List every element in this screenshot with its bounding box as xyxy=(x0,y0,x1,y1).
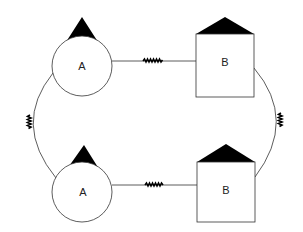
edge-top xyxy=(112,59,196,62)
squiggle-marker-left xyxy=(28,115,32,129)
diagram-canvas: A B A B xyxy=(0,0,303,232)
node-a-bottom: A xyxy=(52,145,112,222)
node-label: A xyxy=(79,186,87,198)
roof-cap-icon xyxy=(197,144,255,162)
edge-left-arc xyxy=(28,73,57,178)
node-a-top: A xyxy=(52,17,112,96)
squiggle-marker-top xyxy=(143,59,163,62)
node-label: B xyxy=(221,56,228,68)
node-label: B xyxy=(222,184,229,196)
roof-cap-icon xyxy=(196,17,254,34)
edge-bottom xyxy=(112,183,197,186)
node-b-top: B xyxy=(196,17,254,97)
edge-right-arc xyxy=(254,68,282,177)
node-label: A xyxy=(78,60,86,72)
node-b-bottom: B xyxy=(197,144,255,222)
squiggle-marker-right xyxy=(279,113,283,127)
squiggle-marker-bottom xyxy=(145,183,163,186)
